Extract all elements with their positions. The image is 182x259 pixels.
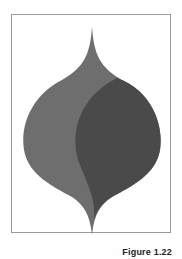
figure-frame bbox=[11, 14, 171, 233]
figure-caption: Figure 1.22 bbox=[122, 246, 172, 259]
onion-dome-illustration bbox=[12, 15, 172, 234]
